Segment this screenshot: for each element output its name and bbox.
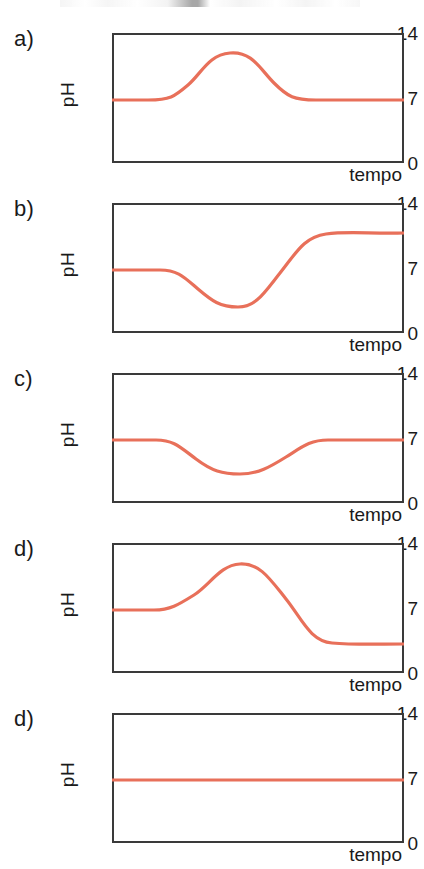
panel-letter: d) [14,707,34,731]
panel-letter: d) [14,537,34,561]
ph-curve-path [112,53,404,100]
x-axis-label-tempo: tempo [112,675,402,695]
y-axis-label-ph: pH [58,78,77,112]
ph-curve-path [112,233,404,307]
x-axis-label-tempo: tempo [112,505,402,525]
x-axis-label-tempo: tempo [112,165,402,185]
ph-curve-path [112,440,404,474]
y-axis-label-ph: pH [58,248,77,282]
x-axis-label-tempo: tempo [112,845,402,865]
plot-panel: a)1470pHtempo [0,27,424,187]
ph-curve-svg [112,203,404,333]
y-axis-label-ph: pH [58,588,77,622]
ph-curve-svg [112,543,404,673]
x-axis-label-tempo: tempo [112,335,402,355]
plot-panel: c)1470pHtempo [0,367,424,527]
scan-artifact-strip [60,0,360,7]
ph-curve-path [112,564,404,644]
panel-letter: b) [14,197,34,221]
ph-curve-svg [112,713,404,843]
panel-letter: c) [14,367,33,391]
plot-panel: d)1470pHtempo [0,537,424,697]
y-axis-label-ph: pH [58,418,77,452]
y-axis-label-ph: pH [58,758,77,792]
plot-panel: b)1470pHtempo [0,197,424,357]
plot-panel: d)1470pHtempo [0,707,424,867]
panel-letter: a) [14,27,34,51]
ph-curve-svg [112,373,404,503]
ph-curve-svg [112,33,404,163]
